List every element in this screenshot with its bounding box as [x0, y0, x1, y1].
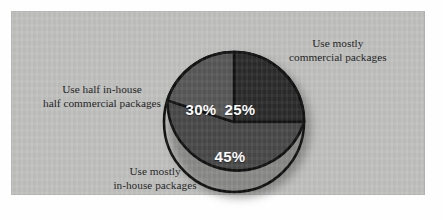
figure-canvas: 25% 45% 30% Use mostly commercial packag…: [0, 0, 443, 220]
pie-data-label-commercial: 25%: [224, 101, 255, 118]
pie-callout-half-half-line1: Use half in-house: [33, 82, 171, 96]
pie-data-label-in-house: 45%: [214, 148, 245, 165]
figure-plate: 25% 45% 30% Use mostly commercial packag…: [11, 11, 425, 195]
pie-callout-in-house: Use mostly in-house packages: [99, 164, 211, 192]
pie-data-label-half-half: 30%: [185, 101, 216, 118]
pie-callout-half-half-line2: half commercial packages: [33, 96, 171, 110]
pie-callout-in-house-line2: in-house packages: [99, 178, 211, 192]
pie-callout-commercial-line2: commercial packages: [289, 50, 387, 64]
pie-callout-commercial-line1: Use mostly: [289, 36, 387, 50]
pie-callout-commercial: Use mostly commercial packages: [289, 36, 387, 64]
pie-callout-half-half: Use half in-house half commercial packag…: [33, 82, 171, 110]
pie-callout-in-house-line1: Use mostly: [99, 164, 211, 178]
